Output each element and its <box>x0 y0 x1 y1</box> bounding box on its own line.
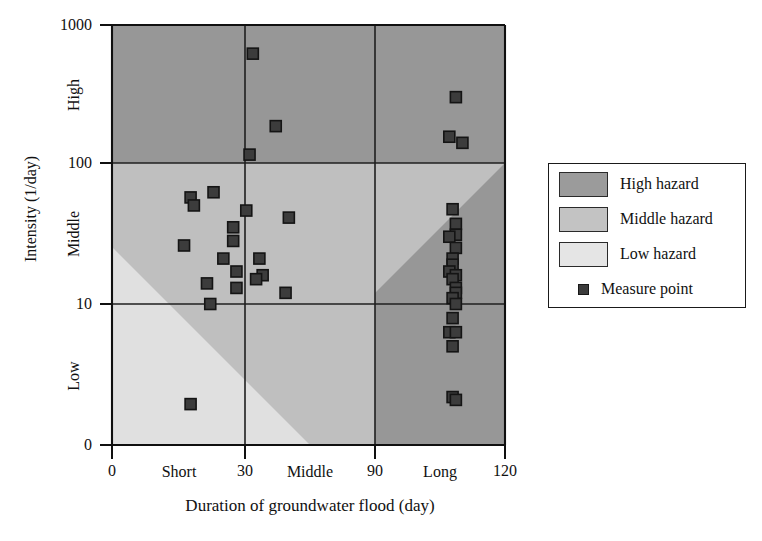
y-tick-label-1000: 1000 <box>32 17 92 33</box>
measure-point <box>444 131 455 142</box>
legend-item-low-hazard: Low hazard <box>549 239 747 269</box>
legend-swatch-middle-hazard <box>559 207 608 232</box>
measure-point <box>254 253 265 264</box>
measure-point <box>218 253 229 264</box>
measure-point <box>450 327 461 338</box>
measure-point <box>247 48 258 59</box>
measure-point <box>241 205 252 216</box>
x-band-label-short: Short <box>139 463 219 481</box>
y-axis-title: Intensity (1/day) <box>22 94 40 324</box>
x-band-label-long: Long <box>400 463 480 481</box>
x-band-label-middle: Middle <box>270 463 350 481</box>
measure-point <box>270 121 281 132</box>
x-tick-label-90: 90 <box>345 463 405 479</box>
measure-point <box>231 266 242 277</box>
y-band-label-high: High <box>65 50 83 140</box>
legend-item-middle-hazard: Middle hazard <box>549 204 747 234</box>
y-band-label-low: Low <box>65 331 83 421</box>
legend-label-low-hazard: Low hazard <box>620 245 696 263</box>
measure-point <box>228 235 239 246</box>
measure-point <box>188 200 199 211</box>
measure-point <box>228 222 239 233</box>
measure-point <box>185 399 196 410</box>
legend-marker-measure-point <box>578 284 589 295</box>
y-tick-label-0: 0 <box>32 437 92 453</box>
hazard-matrix-figure: 1000 100 10 0 High Middle Low 0 30 90 12… <box>0 0 762 541</box>
measure-point <box>244 149 255 160</box>
legend-swatch-high-hazard <box>559 172 608 197</box>
measure-point <box>450 242 461 253</box>
legend-item-measure-point: Measure point <box>549 274 747 304</box>
legend-label-measure-point: Measure point <box>601 280 693 298</box>
measure-point <box>205 299 216 310</box>
measure-point <box>450 218 461 229</box>
y-band-label-middle: Middle <box>65 189 83 279</box>
legend-box: High hazard Middle hazard Low hazard Mea… <box>548 163 746 308</box>
measure-point <box>450 394 461 405</box>
legend-label-high-hazard: High hazard <box>620 175 699 193</box>
measure-point <box>283 212 294 223</box>
measure-point <box>201 278 212 289</box>
x-tick-label-30: 30 <box>215 463 275 479</box>
x-axis-title: Duration of groundwater flood (day) <box>110 496 510 516</box>
measure-point <box>450 299 461 310</box>
measure-point <box>179 240 190 251</box>
legend-swatch-low-hazard <box>559 242 608 267</box>
legend-label-middle-hazard: Middle hazard <box>620 210 713 228</box>
y-tick-label-100: 100 <box>32 155 92 171</box>
measure-point <box>447 313 458 324</box>
measure-point <box>208 187 219 198</box>
measure-point <box>280 287 291 298</box>
y-tick-label-10: 10 <box>32 296 92 312</box>
measure-point <box>447 204 458 215</box>
measure-point <box>231 282 242 293</box>
measure-point <box>251 274 262 285</box>
measure-point <box>457 137 468 148</box>
measure-point <box>444 231 455 242</box>
legend-item-high-hazard: High hazard <box>549 169 747 199</box>
x-tick-label-0: 0 <box>82 463 142 479</box>
measure-point <box>447 341 458 352</box>
measure-point <box>450 92 461 103</box>
x-tick-label-120: 120 <box>475 463 535 479</box>
